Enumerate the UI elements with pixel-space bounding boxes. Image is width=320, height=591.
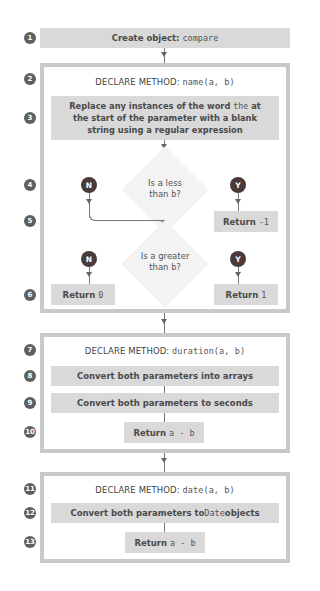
step-badge-5: 5 (24, 215, 36, 227)
replace-line1: Replace any instances of the word (69, 101, 233, 111)
step-badge-9: 9 (24, 397, 36, 409)
return-value: -1 (259, 217, 269, 227)
question-greater-than: Is a greater than b? (120, 251, 210, 273)
step-badge-1: 1 (24, 32, 36, 44)
return-value: a - b (169, 428, 195, 438)
replace-the-box: Replace any instances of the word the at… (51, 96, 279, 140)
step-badge-6: 6 (24, 289, 36, 301)
code-date: Date (204, 508, 224, 518)
convert-seconds-box: Convert both parameters to seconds (51, 393, 279, 413)
method-name-title: DECLARE METHOD: name(a, b) (44, 77, 286, 87)
declare-method-label: DECLARE METHOD: (95, 485, 179, 495)
return-label: Return (226, 290, 259, 300)
question-less-line1: Is a less (125, 178, 205, 189)
replace-line2: the start of the parameter with a blank (73, 112, 257, 124)
question-less-line2: than (149, 189, 171, 199)
step-badge-7: 7 (24, 344, 36, 356)
arrow-down-icon (86, 199, 92, 204)
arrow-down-icon (235, 272, 241, 277)
return-label: Return (223, 217, 256, 227)
connector-12-13 (164, 523, 165, 532)
create-object-box: Create object: compare (40, 28, 290, 48)
arrow-down-icon (86, 272, 92, 277)
return-zero-box: Return 0 (51, 284, 115, 305)
return-label: Return (133, 428, 166, 438)
method-duration-title: DECLARE METHOD: duration(a, b) (44, 346, 286, 356)
return-date-difference-box: Return a - b (125, 532, 205, 553)
convert-date-box: Convert both parameters to Date objects (51, 503, 279, 523)
return-value: a - b (170, 538, 196, 548)
step-badge-13: 13 (24, 536, 36, 548)
question-mark: ? (176, 189, 181, 199)
convert-date-text: Convert both parameters to (70, 508, 204, 518)
step-badge-12: 12 (24, 507, 36, 519)
yes-badge-1: Y (230, 177, 246, 193)
replace-line3: string using a regular expression (87, 124, 242, 136)
method-date-title: DECLARE METHOD: date(a, b) (44, 485, 286, 495)
question-greater-line1: Is a greater (120, 251, 210, 262)
convert-arrays-box: Convert both parameters into arrays (51, 366, 279, 386)
connector-9-10 (164, 413, 165, 422)
return-difference-box: Return a - b (124, 422, 204, 443)
question-less-than: Is a less than b? (125, 178, 205, 200)
step-badge-11: 11 (24, 483, 36, 495)
arrow-down-icon (161, 319, 167, 324)
return-value: 1 (261, 290, 266, 300)
step-badge-2: 2 (24, 73, 36, 85)
yes-badge-2: Y (230, 251, 246, 267)
step-badge-8: 8 (24, 370, 36, 382)
step-badge-4: 4 (24, 179, 36, 191)
return-value: 0 (98, 290, 103, 300)
question-mark: ? (176, 262, 181, 272)
step-badge-3: 3 (24, 112, 36, 124)
declare-method-label: DECLARE METHOD: (85, 346, 169, 356)
create-object-label: Create object: (112, 33, 180, 43)
method-signature: duration(a, b) (172, 346, 245, 356)
declare-method-label: DECLARE METHOD: (95, 77, 179, 87)
code-the: the (233, 101, 248, 111)
step-badge-10: 10 (24, 426, 36, 438)
method-signature: name(a, b) (183, 77, 235, 87)
convert-date-text-post: objects (225, 508, 260, 518)
replace-line1-post: at (248, 101, 260, 111)
connector-8-9 (164, 386, 165, 393)
return-minus-one-box: Return -1 (214, 211, 278, 232)
arrow-down-icon (235, 199, 241, 204)
question-greater-line2: than (149, 262, 171, 272)
return-label: Return (63, 290, 96, 300)
return-one-box: Return 1 (214, 284, 278, 305)
return-label: Return (134, 538, 167, 548)
method-signature: date(a, b) (183, 485, 235, 495)
no-badge-1: N (81, 177, 97, 193)
arrow-down-icon (161, 458, 167, 463)
create-object-code: compare (182, 33, 218, 43)
no-badge-2: N (81, 251, 97, 267)
arrow-down-icon (161, 52, 167, 57)
